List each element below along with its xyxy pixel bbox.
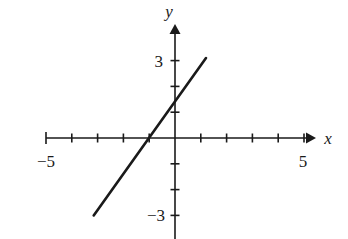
x-tick-label-negative-5: −5 [37, 152, 55, 171]
y-axis-arrow-icon [170, 24, 181, 34]
coordinate-plane-svg: y x 3 −3 −5 5 [0, 0, 348, 239]
y-axis-variable-label: y [163, 2, 173, 21]
graph-figure: y x 3 −3 −5 5 [0, 0, 348, 239]
x-axis-arrow-icon [306, 133, 316, 144]
y-tick-label-negative-3: −3 [147, 206, 165, 225]
x-axis-group [46, 132, 316, 144]
linear-function-line [94, 58, 206, 215]
plot-line-group [94, 58, 206, 215]
x-axis-variable-label: x [323, 129, 332, 148]
y-axis-group [170, 24, 181, 239]
y-tick-label-3: 3 [155, 52, 164, 71]
x-tick-label-5: 5 [299, 152, 308, 171]
